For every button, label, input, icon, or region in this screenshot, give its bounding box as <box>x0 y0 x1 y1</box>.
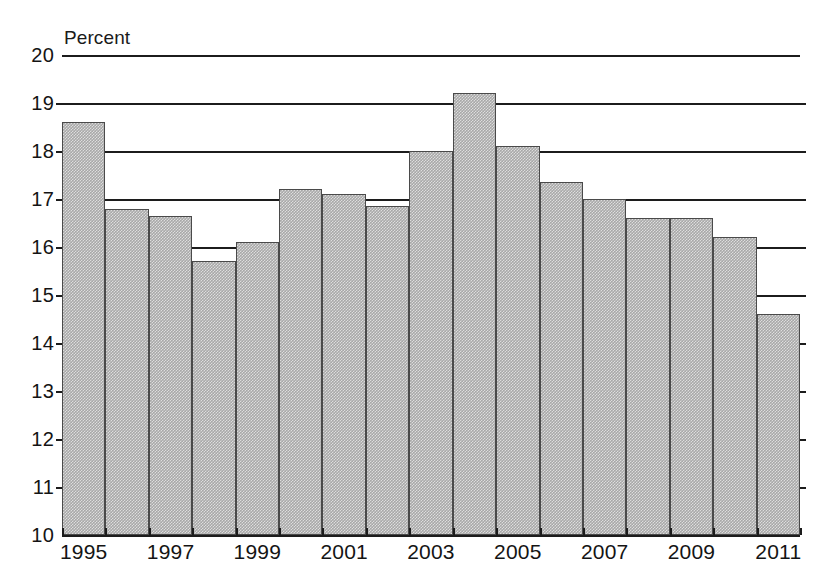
x-axis-tick-mark <box>540 528 542 535</box>
x-axis-tick-mark <box>149 528 151 535</box>
x-axis-tick-label: 2011 <box>755 540 801 564</box>
x-axis-tick-mark <box>105 528 107 535</box>
y-axis-tick-label: 18 <box>10 140 54 163</box>
y-axis-unit-label: Percent <box>64 27 130 49</box>
x-axis-tick-label: 2005 <box>494 540 542 564</box>
axis-baseline <box>62 535 800 537</box>
x-axis-tick-mark <box>670 528 672 535</box>
y-axis-tick-mark <box>800 103 806 105</box>
y-axis-tick-label: 10 <box>10 524 54 547</box>
y-axis-tick-labels: 1011121314151617181920 <box>0 0 54 581</box>
x-axis-tick-mark <box>366 528 368 535</box>
plot-area <box>62 55 800 535</box>
y-axis-tick-mark <box>800 343 806 345</box>
y-axis-tick-label: 17 <box>10 188 54 211</box>
x-axis-tick-mark <box>192 528 194 535</box>
y-axis-tick-mark <box>800 487 806 489</box>
x-axis-tick-mark <box>496 528 498 535</box>
y-axis-tick-label: 12 <box>10 428 54 451</box>
y-axis-tick-label: 20 <box>10 44 54 67</box>
x-axis-tick-mark <box>236 528 238 535</box>
y-axis-tick-label: 11 <box>10 476 54 499</box>
x-axis-tick-marks <box>62 55 800 535</box>
x-axis-tick-mark <box>409 528 411 535</box>
y-axis-tick-mark <box>800 247 806 249</box>
y-axis-tick-mark <box>800 439 806 441</box>
y-axis-tick-mark <box>800 391 806 393</box>
y-axis-tick-mark <box>800 151 806 153</box>
x-axis-tick-label: 1997 <box>147 540 195 564</box>
x-axis-tick-mark <box>713 528 715 535</box>
y-axis-tick-label: 19 <box>10 92 54 115</box>
x-axis-tick-mark <box>800 528 802 535</box>
bar-chart: Percent 1011121314151617181920 199519971… <box>0 0 821 581</box>
y-axis-tick-label: 14 <box>10 332 54 355</box>
y-axis-tick-label: 16 <box>10 236 54 259</box>
x-axis-tick-label: 2007 <box>581 540 629 564</box>
x-axis-tick-mark <box>626 528 628 535</box>
x-axis-tick-label: 2001 <box>320 540 368 564</box>
y-axis-tick-mark <box>800 199 806 201</box>
y-axis-tick-label: 15 <box>10 284 54 307</box>
x-axis-tick-mark <box>322 528 324 535</box>
x-axis-tick-mark <box>583 528 585 535</box>
x-axis-tick-mark <box>453 528 455 535</box>
x-axis-tick-label: 1999 <box>234 540 282 564</box>
x-axis-tick-mark <box>279 528 281 535</box>
x-axis-tick-mark <box>62 528 64 535</box>
y-axis-tick-mark <box>800 295 806 297</box>
x-axis-tick-labels: 199519971999200120032005200720092011 <box>62 540 800 580</box>
x-axis-tick-mark <box>757 528 759 535</box>
x-axis-tick-label: 2003 <box>407 540 455 564</box>
x-axis-tick-label: 1995 <box>60 540 108 564</box>
y-axis-tick-label: 13 <box>10 380 54 403</box>
x-axis-tick-label: 2009 <box>668 540 716 564</box>
